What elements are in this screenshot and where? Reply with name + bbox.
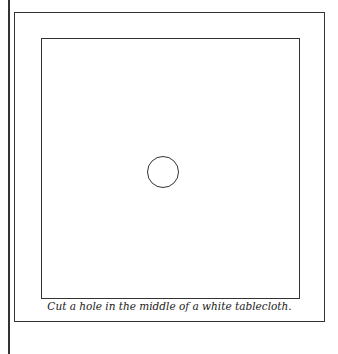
figure-caption: Cut a hole in the middle of a white tabl… (14, 300, 325, 312)
page-margin-line (8, 0, 10, 354)
hole-circle (147, 156, 179, 188)
